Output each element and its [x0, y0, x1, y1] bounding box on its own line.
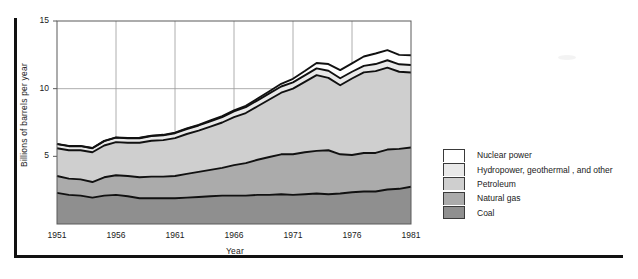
x-tick-label: 1966 [214, 230, 254, 240]
figure-container: Billions of barrels per year Year 51015 … [0, 0, 638, 279]
x-tick-label: 1976 [332, 230, 372, 240]
legend-item: Natural gas [443, 191, 633, 205]
legend-item: Coal [443, 206, 633, 220]
legend-item: Hydropower, geothermal , and other [443, 162, 633, 176]
chart-legend: Nuclear powerHydropower, geothermal , an… [443, 148, 633, 220]
y-tick-label: 15 [25, 15, 49, 25]
x-axis-title: Year [200, 246, 270, 256]
legend-swatch [443, 163, 465, 176]
legend-swatch [443, 177, 465, 190]
x-tick-label: 1956 [96, 230, 136, 240]
legend-swatch [443, 206, 465, 219]
x-tick-label: 1981 [391, 230, 431, 240]
legend-label: Petroleum [477, 179, 516, 189]
legend-swatch [443, 192, 465, 205]
legend-label: Nuclear power [477, 150, 532, 160]
x-tick-label: 1951 [37, 230, 77, 240]
x-tick-label: 1961 [155, 230, 195, 240]
y-tick-label: 5 [25, 150, 49, 160]
x-tick-label: 1971 [273, 230, 313, 240]
legend-label: Coal [477, 208, 494, 218]
legend-label: Natural gas [477, 193, 520, 203]
legend-item: Petroleum [443, 177, 633, 191]
legend-swatch [443, 149, 465, 162]
legend-item: Nuclear power [443, 148, 633, 162]
y-tick-label: 10 [25, 83, 49, 93]
legend-label: Hydropower, geothermal , and other [477, 165, 613, 175]
